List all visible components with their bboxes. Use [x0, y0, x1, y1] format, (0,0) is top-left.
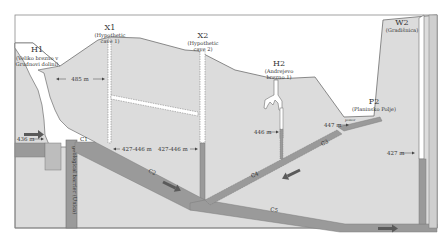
- h2-water: [280, 129, 283, 159]
- measure-x2-label: 427-446 m: [158, 146, 189, 152]
- site-h1-id: H1: [31, 45, 43, 54]
- measure-485-label: 485 m: [71, 76, 89, 82]
- w2-spring-shaft: [419, 15, 424, 159]
- x2-shaft-water: [200, 143, 205, 203]
- site-p2-name: (Planinsko Polje): [352, 106, 396, 113]
- site-h2-id: H2: [273, 59, 285, 68]
- h1-rock-step: [45, 143, 61, 170]
- measure-x1-label: 427-446 m: [122, 146, 153, 152]
- site-h1-name2: Grudnovi dolini): [16, 61, 59, 67]
- h1-water-block: [15, 143, 45, 157]
- karst-cross-section-diagram: geological barrier (Unica) H1 (Veliko br…: [0, 0, 447, 243]
- site-h2-name2: brezno 1): [266, 74, 291, 80]
- site-w2-id: W2: [395, 18, 408, 27]
- site-x2-id: X2: [198, 31, 209, 40]
- measure-436-label: 436 m: [17, 136, 35, 142]
- site-x2-name2: cave 2): [194, 46, 213, 52]
- conduit-c1-label: C1: [80, 136, 88, 142]
- x2-shaft-void: [200, 51, 205, 143]
- w2-water-column: [419, 159, 426, 224]
- geological-barrier-label: geological barrier (Unica): [71, 146, 78, 214]
- ponor-label: ponor: [345, 118, 356, 122]
- x1-shaft: [108, 39, 111, 143]
- site-p2-id: P2: [369, 97, 379, 106]
- site-x1-id: X1: [105, 23, 116, 32]
- site-w2-name: (Gradišnica): [386, 27, 418, 33]
- site-x1-name2: cave 1): [101, 38, 120, 44]
- w2-outer-column: [429, 15, 437, 228]
